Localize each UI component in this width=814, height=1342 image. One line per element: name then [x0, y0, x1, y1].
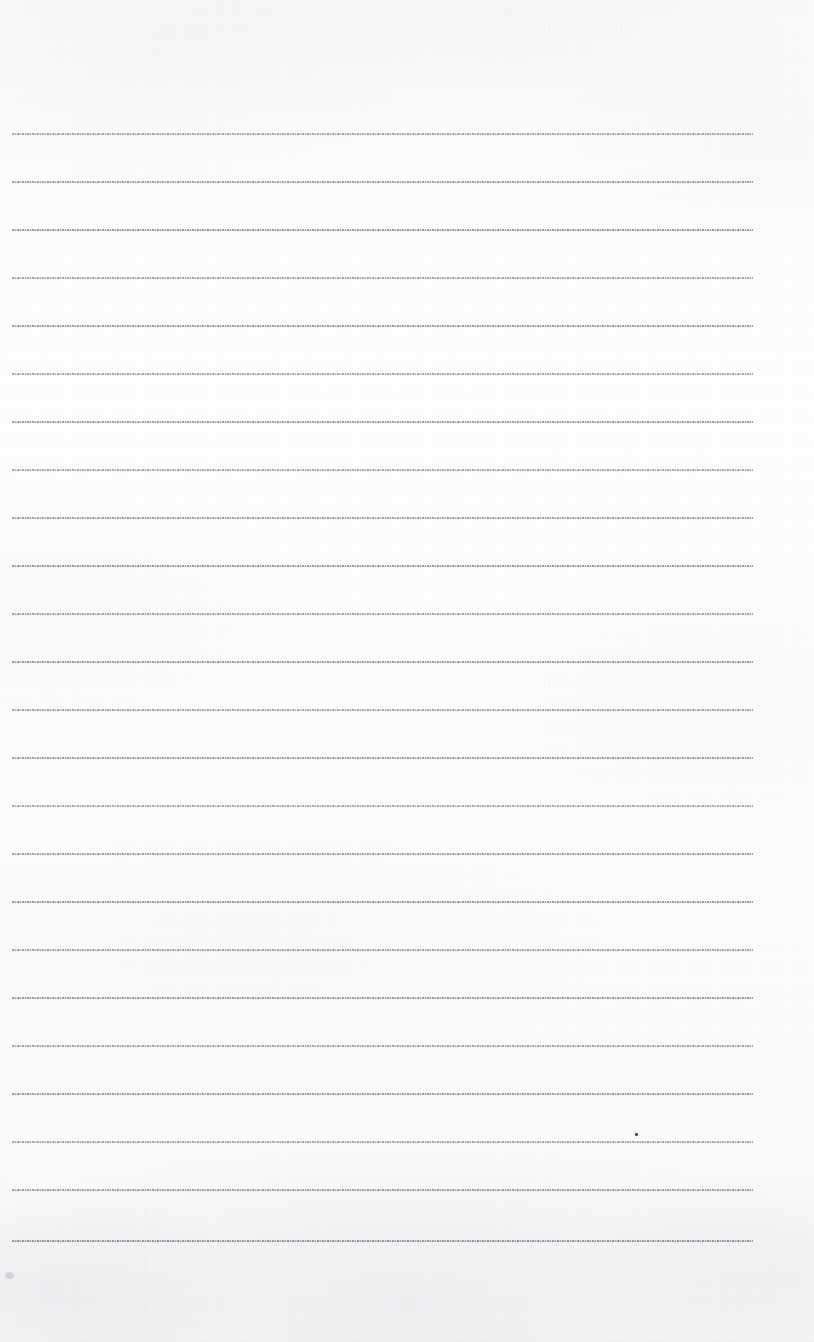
- corner-smudge-artifact: [5, 1272, 14, 1279]
- ink-speck-artifact: [635, 1133, 638, 1136]
- scanned-page: [0, 0, 814, 1342]
- paper-background: [0, 0, 814, 1342]
